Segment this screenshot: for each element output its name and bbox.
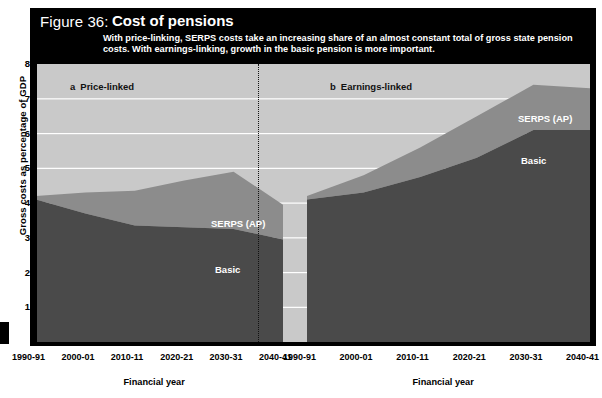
corner-mark	[0, 322, 9, 344]
x-tick-a-1990-91: 1990-91	[12, 352, 45, 362]
panel-a-name: Price-linked	[80, 81, 134, 92]
panel-gap	[283, 64, 307, 342]
y-axis-title: Gross costs as percentage of GDP	[17, 46, 28, 266]
x-tick-b-1990-91: 1990-91	[283, 352, 316, 362]
x-axis-line	[35, 342, 591, 344]
panel-b-index: b	[330, 81, 336, 92]
panel-a-basic-label: Basic	[215, 264, 240, 275]
panel-b-label: bEarnings-linked	[330, 81, 412, 92]
x-tick-a-2010-11: 2010-11	[111, 352, 144, 362]
figure-number: Figure 36:	[40, 13, 109, 30]
x-tick-b-2020-21: 2020-21	[453, 352, 486, 362]
x-axis-title-left: Financial year	[124, 377, 185, 387]
y-tick-1: 1	[12, 301, 30, 312]
x-tick-b-2040-41: 2040-41	[566, 352, 599, 362]
x-tick-a-2030-31: 2030-31	[210, 352, 243, 362]
x-tick-a-2000-01: 2000-01	[61, 352, 94, 362]
plot-area	[36, 64, 590, 342]
panel-gap-grid	[283, 64, 307, 342]
x-axis-title-right: Financial year	[413, 377, 474, 387]
x-tick-b-2010-11: 2010-11	[396, 352, 429, 362]
panel-a-index: a	[70, 81, 75, 92]
x-tick-b-2030-31: 2030-31	[509, 352, 542, 362]
panel-b-areas	[307, 64, 590, 342]
figure-title: Cost of pensions	[112, 12, 234, 29]
x-tick-b-2000-01: 2000-01	[340, 352, 373, 362]
y-tick-2: 2	[12, 267, 30, 278]
panel-b-serps-label: SERPS (AP)	[518, 113, 572, 124]
figure-root: Figure 36: Cost of pensions With price-l…	[0, 0, 602, 398]
panel-a-areas	[36, 64, 283, 342]
y-axis-line	[35, 64, 37, 344]
panel-a-label: aPrice-linked	[70, 81, 134, 92]
figure-subtitle: With price-linking, SERPS costs take an …	[103, 33, 581, 56]
panel-b-name: Earnings-linked	[341, 81, 412, 92]
panel-price-linked	[36, 64, 283, 342]
panel-b-basic-label: Basic	[521, 155, 546, 166]
panel-earnings-linked	[307, 64, 590, 342]
panel-divider	[258, 64, 259, 342]
x-tick-a-2020-21: 2020-21	[160, 352, 193, 362]
panel-a-serps-label: SERPS (AP)	[211, 218, 265, 229]
